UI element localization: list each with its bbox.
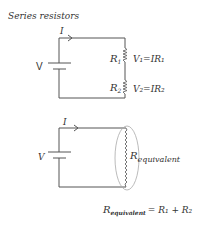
voltage-label: V bbox=[38, 152, 46, 162]
bottom-circuit: I V Requivalent bbox=[38, 117, 181, 190]
diagram-title: Series resistors bbox=[8, 11, 80, 21]
r1-label: R1 bbox=[109, 53, 121, 65]
resistor-r1-icon bbox=[123, 48, 127, 62]
series-resistor-diagram: Series resistors I V R1 V₁=IR₁ R2 V₂=IR₂ bbox=[0, 0, 197, 228]
r-equivalent-label: Requivalent bbox=[129, 150, 181, 164]
r2-label: R2 bbox=[109, 82, 122, 94]
top-circuit: I V R1 V₁=IR₁ R2 V₂=IR₂ bbox=[36, 26, 165, 98]
current-label: I bbox=[59, 26, 64, 36]
resistor-r2-icon bbox=[123, 80, 127, 94]
r1-equation: V₁=IR₁ bbox=[133, 54, 165, 64]
equivalent-formula: Requivalent= R₁ + R₂ bbox=[102, 204, 193, 217]
resistor-equivalent-icon bbox=[125, 128, 127, 187]
current-label: I bbox=[62, 117, 67, 127]
voltage-label: V bbox=[36, 61, 43, 72]
r2-equation: V₂=IR₂ bbox=[133, 84, 165, 94]
